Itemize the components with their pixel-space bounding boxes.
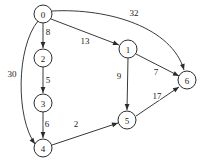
node-label: 1 xyxy=(126,45,131,55)
graph-edge xyxy=(127,58,128,110)
node-label: 5 xyxy=(125,116,130,126)
node-label: 2 xyxy=(41,54,46,64)
edge-weight-label: 9 xyxy=(117,71,122,81)
graph-edge xyxy=(21,21,38,144)
edge-arrowhead xyxy=(41,87,46,93)
edge-arrowhead xyxy=(113,41,120,48)
edge-weight-label: 8 xyxy=(46,27,51,37)
edge-weight-label: 6 xyxy=(45,119,50,129)
edge-weight-label: 17 xyxy=(153,91,163,101)
graph-node-4[interactable]: 4 xyxy=(34,139,52,157)
graph-diagram-canvas: 88556630301313323299772217170123456 xyxy=(0,0,206,167)
edge-weight-label: 2 xyxy=(74,119,79,129)
node-label: 4 xyxy=(41,144,46,154)
edge-weight-label: 7 xyxy=(154,67,159,77)
graph-svg: 88556630301313323299772217170123456 xyxy=(0,0,206,167)
edge-arrowhead xyxy=(41,132,46,138)
nodes-layer: 0123456 xyxy=(34,5,196,157)
graph-node-0[interactable]: 0 xyxy=(34,5,52,23)
graph-edge xyxy=(52,11,184,70)
edge-arrowhead xyxy=(180,64,186,71)
node-label: 0 xyxy=(41,10,46,20)
edge-weight-label: 5 xyxy=(46,75,51,85)
graph-node-1[interactable]: 1 xyxy=(119,40,137,58)
graph-node-2[interactable]: 2 xyxy=(34,49,52,67)
graph-node-6[interactable]: 6 xyxy=(178,71,196,89)
edge-arrowhead xyxy=(125,104,130,110)
node-label: 6 xyxy=(185,76,190,86)
edge-labels-layer: 8855663030131332329977221717 xyxy=(8,8,163,129)
graph-node-5[interactable]: 5 xyxy=(118,111,136,129)
graph-node-3[interactable]: 3 xyxy=(34,94,52,112)
graph-edge xyxy=(52,123,118,145)
edge-weight-label: 13 xyxy=(81,36,91,46)
edge-weight-label: 32 xyxy=(130,8,139,18)
edge-arrowhead xyxy=(41,42,46,48)
edge-arrowhead xyxy=(173,85,181,92)
node-label: 3 xyxy=(41,99,46,109)
edge-weight-label: 30 xyxy=(8,69,18,79)
